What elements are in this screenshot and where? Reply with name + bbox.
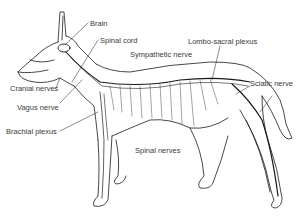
label-spinal-nerves: Spinal nerves <box>135 146 180 155</box>
label-brachial-plexus: Brachial plexus <box>6 127 57 136</box>
label-vagus-nerve: Vagus nerve <box>17 103 59 112</box>
label-lombo-sacral-plexus: Lombo-sacral plexus <box>188 37 257 46</box>
dog-nervous-system-diagram: Brain Spinal cord Sympathetic nerve Lomb… <box>0 0 296 216</box>
label-cranial-nerves: Cranial nerves <box>10 84 58 93</box>
label-brain: Brain <box>90 19 108 28</box>
label-spinal-cord: Spinal cord <box>100 36 138 45</box>
label-sciatic-nerve: Sciatic nerve <box>250 79 293 88</box>
label-sympathetic-nerve: Sympathetic nerve <box>130 50 192 59</box>
